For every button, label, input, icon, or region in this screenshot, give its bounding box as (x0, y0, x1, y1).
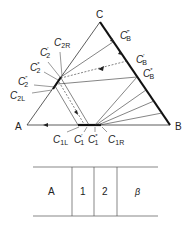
diffusion-path (59, 61, 127, 124)
layer-2-label: 2 (102, 186, 108, 197)
label-c1r: C1R (108, 134, 124, 146)
label-c2-prime: C′2 (40, 46, 50, 59)
label-c1-star: C*1 (88, 133, 99, 146)
layer-beta-label: β (134, 187, 140, 197)
cb-edge-thick (100, 22, 170, 125)
arrow-left-base-icon (43, 123, 48, 127)
label-cb-triple-prime: C‴B (120, 29, 131, 42)
tie-lines (55, 42, 162, 125)
label-cb-prime: C′B (136, 53, 147, 66)
label-c1-prime: C′1 (74, 133, 84, 146)
ternary-diffusion-diagram: C A B C‴B C′B C*B C2R C′2 C*2 C″2 C2L C1… (0, 0, 192, 225)
label-c2l: C2L (10, 90, 25, 102)
label-c2-double-prime: C″2 (18, 75, 28, 88)
vertex-a-label: A (15, 121, 22, 132)
vertex-b-label: B (175, 121, 182, 132)
vertex-c-label: C (96, 9, 103, 20)
label-cb-star: C*B (143, 67, 155, 80)
layer-a-label: A (48, 186, 55, 197)
label-c2r: C2R (54, 37, 70, 49)
arrow-down-icon (74, 110, 78, 115)
label-c2-star: C*2 (30, 61, 41, 74)
layer-1-label: 1 (80, 186, 86, 197)
label-c1l: C1L (53, 134, 68, 146)
